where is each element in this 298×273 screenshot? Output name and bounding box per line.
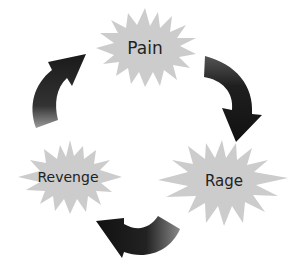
- arrow-pain-to-rage: [204, 56, 262, 142]
- node-label-revenge: Revenge: [38, 170, 99, 184]
- node-label-rage: Rage: [205, 174, 243, 189]
- arrow-revenge-to-pain: [33, 54, 86, 128]
- arrow-rage-to-revenge: [96, 216, 180, 258]
- node-label-pain: Pain: [127, 40, 162, 57]
